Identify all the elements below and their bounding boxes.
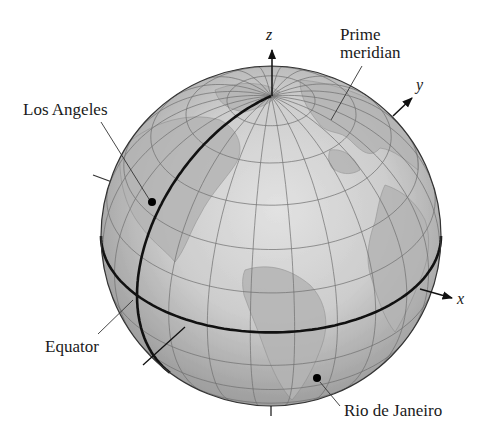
globe-figure <box>0 0 481 441</box>
los-angeles-label: Los Angeles <box>23 101 108 119</box>
y-axis <box>393 98 412 116</box>
negative-y-axis-stub <box>93 175 112 182</box>
equator-label: Equator <box>45 338 99 356</box>
prime-meridian-label-line2: meridian <box>340 44 400 62</box>
x-axis-label: x <box>457 290 464 308</box>
rio-de-janeiro-point <box>313 374 321 382</box>
prime-meridian-label: Prime meridian <box>340 26 400 62</box>
z-axis-label: z <box>266 26 272 44</box>
los-angeles-point <box>148 198 156 206</box>
prime-meridian-label-line1: Prime <box>340 26 400 44</box>
y-axis-label: y <box>416 76 423 94</box>
rio-de-janeiro-label: Rio de Janeiro <box>344 402 442 420</box>
